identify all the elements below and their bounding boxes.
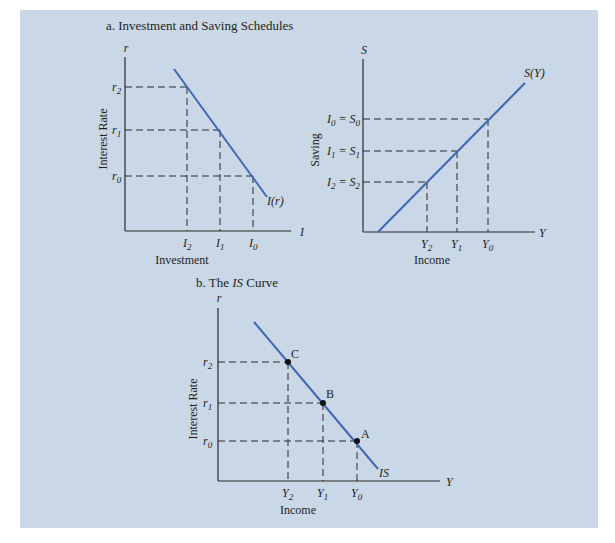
is-x-tick-y0: Y0 <box>351 486 363 502</box>
saving-x-axis-symbol: Y <box>539 226 547 240</box>
is-curve-chart: r Y IS C B A r2 r1 r0 Y2 Y1 Y0 Income In… <box>186 291 454 517</box>
saving-curve-label: S(Y) <box>524 66 545 80</box>
saving-y-axis-symbol: S <box>361 43 367 57</box>
is-x-axis-symbol: Y <box>446 475 454 489</box>
is-y-tick-r1: r1 <box>203 396 212 412</box>
is-x-tick-y2: Y2 <box>282 486 294 502</box>
panel-a-title: a. Investment and Saving Schedules <box>106 18 293 33</box>
investment-y-tick-r2: r2 <box>112 80 122 96</box>
saving-x-tick-y2: Y2 <box>421 237 433 253</box>
is-y-tick-r2: r2 <box>203 355 213 371</box>
saving-y-tick-2: I2 = S2 <box>326 175 361 191</box>
saving-guides <box>363 119 488 232</box>
panel-b-title: b. The IS Curve <box>196 275 278 290</box>
point-b-label: B <box>326 387 334 401</box>
point-a-label: A <box>361 427 370 441</box>
is-x-tick-y1: Y1 <box>317 486 328 502</box>
investment-chart: r I I(r) r2 r1 r0 I2 I1 I0 Investment In… <box>96 41 305 267</box>
saving-y-axis-label: Saving <box>308 133 322 166</box>
saving-curve <box>378 83 525 232</box>
investment-y-tick-r1: r1 <box>112 123 121 139</box>
is-y-tick-r0: r0 <box>203 434 213 450</box>
investment-x-tick-i2: I2 <box>182 236 192 252</box>
saving-chart: S Y S(Y) I0 = S0 I1 = S1 I2 = S2 Y2 Y1 Y… <box>308 43 547 267</box>
point-c-label: C <box>291 347 299 361</box>
investment-curve-label: I(r) <box>266 194 284 208</box>
point-a <box>354 438 360 444</box>
is-y-axis-label: Interest Rate <box>186 379 200 440</box>
saving-x-axis-label: Income <box>414 253 450 267</box>
investment-y-tick-r0: r0 <box>112 169 122 185</box>
saving-y-tick-1: I1 = S1 <box>326 144 360 160</box>
is-curve-derivation-diagram: a. Investment and Saving Schedules r I I… <box>0 0 615 543</box>
investment-y-axis-label: Interest Rate <box>96 109 110 170</box>
saving-y-tick-0: I0 = S0 <box>326 112 361 128</box>
investment-guides <box>125 87 253 231</box>
is-guides <box>218 362 357 481</box>
investment-y-axis-symbol: r <box>124 41 129 55</box>
saving-x-tick-y0: Y0 <box>482 237 494 253</box>
is-x-axis-label: Income <box>280 503 316 517</box>
saving-x-tick-y1: Y1 <box>451 237 462 253</box>
investment-x-axis-label: Investment <box>155 253 209 267</box>
is-curve <box>254 322 378 469</box>
investment-x-tick-i0: I0 <box>248 236 258 252</box>
investment-x-axis-symbol: I <box>299 225 305 239</box>
investment-x-tick-i1: I1 <box>215 236 225 252</box>
is-y-axis-symbol: r <box>217 291 222 305</box>
is-curve-label: IS <box>378 466 389 480</box>
